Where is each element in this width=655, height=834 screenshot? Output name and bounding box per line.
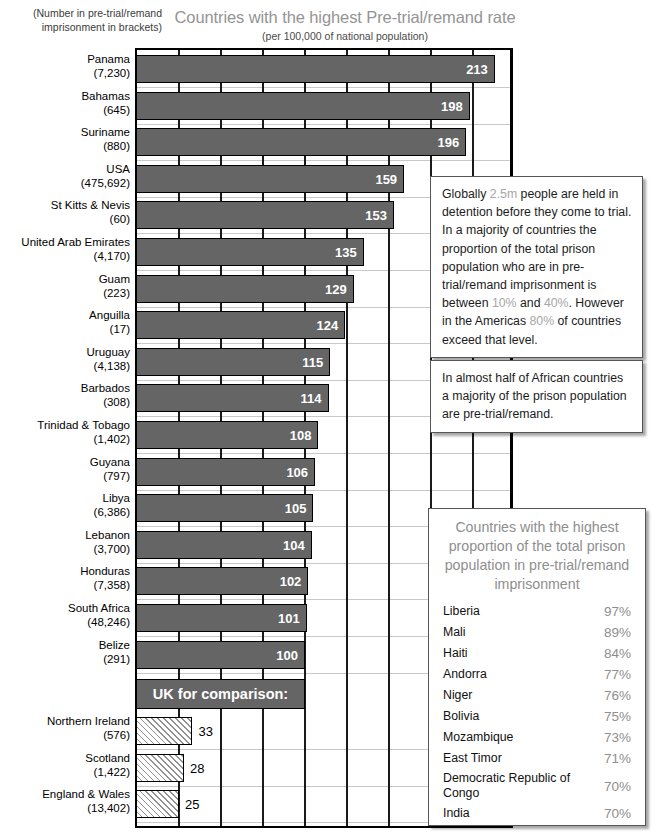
y-axis-label: Trinidad & Tobago(1,402) <box>2 418 130 446</box>
highest-proportion-list: Liberia97%Mali89%Haiti84%Andorra77%Niger… <box>443 601 631 824</box>
y-axis-country-name: USA <box>2 162 130 176</box>
bar-st-kitts-nevis: 153 <box>137 201 394 229</box>
bar-united-arab-emirates: 135 <box>137 238 364 266</box>
y-axis-country-name: Suriname <box>2 125 130 139</box>
bar-value-label: 106 <box>286 464 308 479</box>
callout-highlight-value: 40% <box>544 296 569 310</box>
y-axis-label: Belize(291) <box>2 638 130 666</box>
proportion-row: Haiti84% <box>443 643 631 664</box>
bar-honduras: 102 <box>137 567 308 595</box>
proportion-value: 70% <box>604 779 631 794</box>
y-axis-country-name: Scotland <box>2 751 130 765</box>
bar-anguilla: 124 <box>137 311 345 339</box>
bar-guyana: 106 <box>137 458 315 486</box>
proportion-row: India70% <box>443 803 631 824</box>
y-axis-country-count: (3,700) <box>2 542 130 556</box>
bar-barbados: 114 <box>137 384 329 412</box>
y-axis-country-name: St Kitts & Nevis <box>2 198 130 212</box>
y-axis-country-name: South Africa <box>2 601 130 615</box>
bar-value-label: 115 <box>302 354 323 369</box>
y-axis-label: Scotland(1,422) <box>2 751 130 779</box>
proportion-row: Andorra77% <box>443 664 631 685</box>
callout-text-run: people are held in detention before they… <box>442 187 631 310</box>
proportion-value: 73% <box>604 730 631 745</box>
y-axis-label: Lebanon(3,700) <box>2 528 130 556</box>
y-axis-label: USA(475,692) <box>2 162 130 190</box>
y-axis-country-name: Barbados <box>2 381 130 395</box>
y-axis-label: United Arab Emirates(4,170) <box>2 235 130 263</box>
y-axis-country-count: (223) <box>2 286 130 300</box>
y-axis-country-name: Bahamas <box>2 89 130 103</box>
y-axis-country-count: (4,138) <box>2 359 130 373</box>
proportion-value: 75% <box>604 709 631 724</box>
y-axis-country-name: Guyana <box>2 455 130 469</box>
bar-value-label: 114 <box>301 391 322 406</box>
bar-value-label: 25 <box>185 797 199 812</box>
bar-value-label: 102 <box>280 574 302 589</box>
bar-trinidad-tobago: 108 <box>137 421 318 449</box>
horizontal-gridline <box>137 453 510 454</box>
y-axis-label: Anguilla(17) <box>2 308 130 336</box>
bar-south-africa: 101 <box>137 604 307 632</box>
proportion-value: 97% <box>604 604 631 619</box>
y-axis-country-name: Trinidad & Tobago <box>2 418 130 432</box>
bar-panama: 213 <box>137 55 495 83</box>
proportion-country-name: Mozambique <box>443 730 604 745</box>
y-axis-label: Northern Ireland(576) <box>2 714 130 742</box>
proportion-row: Niger76% <box>443 685 631 706</box>
proportion-value: 84% <box>604 646 631 661</box>
callout-highlight-value: 2.5m <box>490 187 517 201</box>
proportion-country-name: Liberia <box>443 604 604 619</box>
proportion-row: Liberia97% <box>443 601 631 622</box>
y-axis-country-count: (645) <box>2 103 130 117</box>
bar-guam: 129 <box>137 275 354 303</box>
y-axis-country-name: Northern Ireland <box>2 714 130 728</box>
y-axis-label: St Kitts & Nevis(60) <box>2 198 130 226</box>
y-axis-country-name: England & Wales <box>2 787 130 801</box>
proportion-country-name: India <box>443 806 604 821</box>
y-axis-label: England & Wales(13,402) <box>2 787 130 815</box>
callout-africa-stats: In almost half of African countries a ma… <box>430 360 643 433</box>
y-axis-country-name: Lebanon <box>2 528 130 542</box>
bar-libya: 105 <box>137 494 313 522</box>
bar-value-label: 101 <box>278 611 300 626</box>
bar-uruguay: 115 <box>137 348 330 376</box>
callout-africa-text: In almost half of African countries a ma… <box>442 371 627 421</box>
proportion-country-name: Andorra <box>443 667 604 682</box>
bar-northern-ireland: 33 <box>137 717 192 745</box>
highest-proportion-title: Countries with the highest proportion of… <box>443 518 631 594</box>
bar-value-label: 159 <box>375 171 397 186</box>
callout-text-run: and <box>517 296 544 310</box>
highest-proportion-panel: Countries with the highest proportion of… <box>428 508 646 826</box>
bar-scotland: 28 <box>137 754 184 782</box>
proportion-row: Democratic Republic of Congo70% <box>443 769 631 803</box>
bar-value-label: 198 <box>441 98 463 113</box>
y-axis-country-count: (475,692) <box>2 176 130 190</box>
proportion-country-name: East Timor <box>443 751 604 766</box>
callout-global-stats: Globally 2.5m people are held in detenti… <box>430 176 643 358</box>
horizontal-gridline <box>137 124 510 125</box>
y-axis-label: South Africa(48,246) <box>2 601 130 629</box>
y-axis-country-count: (797) <box>2 469 130 483</box>
bar-value-label: 153 <box>365 208 387 223</box>
y-axis-label: Uruguay(4,138) <box>2 345 130 373</box>
y-axis-country-count: (6,386) <box>2 505 130 519</box>
proportion-value: 71% <box>604 751 631 766</box>
bar-value-label: 100 <box>276 647 298 662</box>
bracket-note: (Number in pre-trial/remand imprisonment… <box>2 6 162 34</box>
bar-england-wales: 25 <box>137 790 179 818</box>
bar-value-label: 135 <box>335 245 357 260</box>
y-axis-country-count: (13,402) <box>2 801 130 815</box>
chart-subtitle: (per 100,000 of national population) <box>160 30 530 42</box>
bar-value-label: 33 <box>198 724 212 739</box>
horizontal-gridline <box>137 160 510 161</box>
proportion-row: East Timor71% <box>443 748 631 769</box>
y-axis-country-name: Anguilla <box>2 308 130 322</box>
proportion-country-name: Niger <box>443 688 604 703</box>
y-axis-country-count: (7,358) <box>2 578 130 592</box>
y-axis-country-count: (576) <box>2 728 130 742</box>
bar-value-label: 105 <box>285 501 307 516</box>
horizontal-gridline <box>137 87 510 88</box>
bar-belize: 100 <box>137 641 305 669</box>
y-axis-label: Libya(6,386) <box>2 491 130 519</box>
